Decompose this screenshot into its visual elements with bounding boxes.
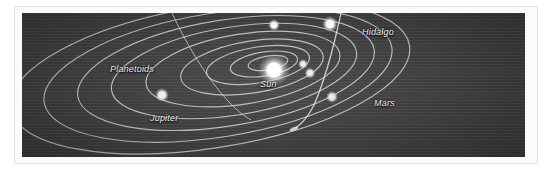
jupiter-body <box>159 92 166 99</box>
orbit-ring-outer-9 <box>22 13 421 157</box>
orbit-ring-outer-8 <box>34 13 401 157</box>
sun-body <box>267 63 282 78</box>
inner-planet-a <box>301 62 305 66</box>
upper-planet-body <box>271 22 277 28</box>
inner-planet-b <box>308 71 313 76</box>
orbit-ring-jupiter <box>70 13 383 149</box>
hidalgo-body <box>326 20 334 28</box>
orbit-plate: Planetoids Jupiter Sun Mars Hidalgo <box>22 13 525 157</box>
orbit-ring-inner-3 <box>204 39 312 91</box>
orbit-rings <box>22 13 421 157</box>
secondary-trajectory-line <box>172 13 251 120</box>
orbit-diagram-svg <box>22 13 525 157</box>
figure-root: Planetoids Jupiter Sun Mars Hidalgo <box>0 0 559 174</box>
mars-body <box>329 94 335 100</box>
